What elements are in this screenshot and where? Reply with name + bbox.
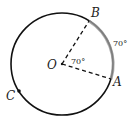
arc-ab-highlight bbox=[89, 21, 113, 79]
label-b: B bbox=[90, 6, 100, 20]
arc-angle-label: 70° bbox=[113, 39, 127, 48]
central-angle-label: 70° bbox=[71, 57, 85, 66]
label-c: C bbox=[6, 89, 15, 103]
radius-oa bbox=[62, 64, 111, 79]
circle-diagram: O A B C 70° 70° bbox=[0, 0, 135, 128]
point-c bbox=[17, 89, 21, 93]
label-o: O bbox=[47, 58, 57, 72]
point-o bbox=[61, 63, 63, 65]
label-a: A bbox=[112, 75, 122, 89]
